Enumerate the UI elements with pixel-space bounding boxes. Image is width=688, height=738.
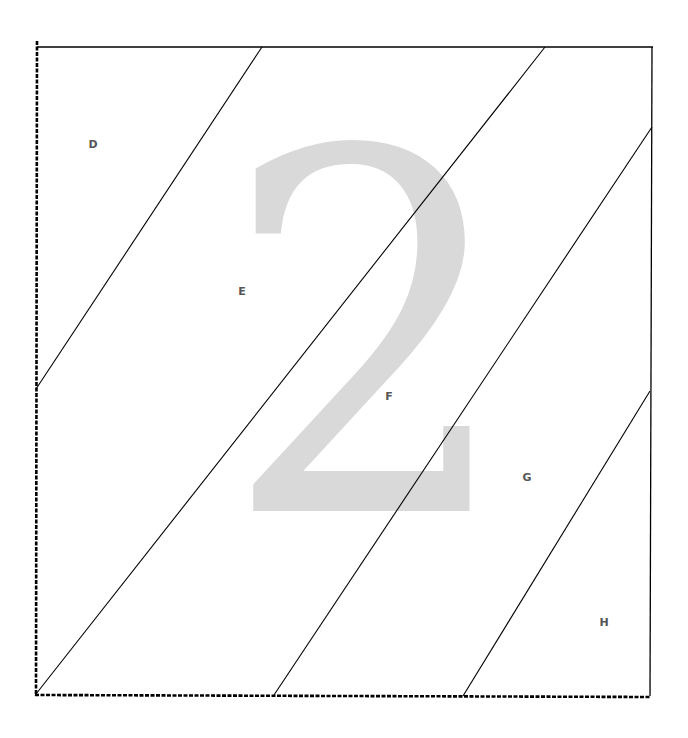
region-label-h: H	[599, 616, 608, 629]
diagram-canvas: 2 D E F G H	[0, 0, 688, 738]
region-label-e: E	[238, 285, 246, 298]
diagonal-line-2	[36, 47, 545, 694]
region-label-g: G	[522, 471, 531, 484]
frame-left-edge	[36, 41, 37, 696]
diagonal-line-3	[274, 127, 652, 695]
region-label-d: D	[88, 138, 97, 151]
frame-and-diagonals	[0, 0, 688, 738]
diagonal-line-1	[36, 47, 262, 389]
region-label-f: F	[385, 390, 393, 403]
diagonal-line-4	[463, 391, 650, 696]
frame-bottom-edge	[35, 695, 651, 697]
frame-right-edge	[650, 47, 652, 696]
